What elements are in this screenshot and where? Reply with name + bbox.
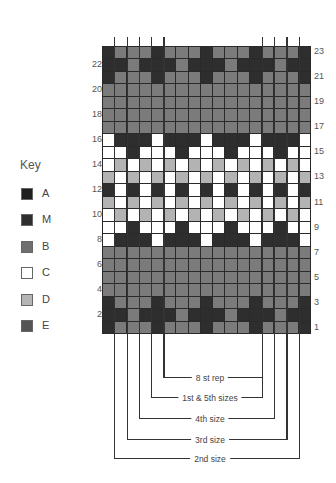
chart-cell — [287, 47, 298, 58]
chart-cell — [176, 109, 187, 120]
chart-cell — [201, 47, 212, 58]
chart-cell — [201, 297, 212, 308]
chart-cell — [274, 322, 285, 333]
chart-cell — [115, 97, 126, 108]
chart-cell — [140, 297, 151, 308]
chart-cell — [189, 72, 200, 83]
row-number: 5 — [314, 272, 330, 282]
chart-cell — [115, 47, 126, 58]
chart-cell — [274, 222, 285, 233]
chart-cell — [274, 159, 285, 170]
chart-cell — [201, 222, 212, 233]
chart-cell — [238, 284, 249, 295]
chart-cell — [115, 147, 126, 158]
chart-cell — [262, 159, 273, 170]
chart-cell — [274, 309, 285, 320]
chart-cell — [238, 59, 249, 70]
chart-cell — [225, 272, 236, 283]
chart-cell — [103, 172, 114, 183]
row-number: 4 — [86, 284, 102, 294]
chart-cell — [103, 134, 114, 145]
chart-cell — [201, 234, 212, 245]
chart-cell — [189, 172, 200, 183]
chart-cell — [274, 172, 285, 183]
chart-cell — [127, 159, 138, 170]
chart-cell — [287, 322, 298, 333]
chart-cell — [225, 84, 236, 95]
chart-cell — [127, 184, 138, 195]
chart-cell — [274, 272, 285, 283]
row-number: 11 — [314, 197, 330, 207]
chart-cell — [176, 309, 187, 320]
chart-cell — [127, 259, 138, 270]
chart-cell — [115, 234, 126, 245]
chart-cell — [201, 172, 212, 183]
chart-cell — [213, 322, 224, 333]
chart-cell — [225, 297, 236, 308]
chart-cell — [140, 134, 151, 145]
chart-cell — [115, 172, 126, 183]
chart-cell — [164, 272, 175, 283]
chart-cell — [164, 259, 175, 270]
chart-cell — [274, 72, 285, 83]
chart-cell — [115, 222, 126, 233]
chart-cell — [213, 72, 224, 83]
chart-cell — [127, 122, 138, 133]
chart-cell — [140, 72, 151, 83]
chart-cell — [287, 309, 298, 320]
chart-cell — [250, 134, 261, 145]
chart-cell — [176, 322, 187, 333]
chart-cell — [262, 209, 273, 220]
chart-cell — [189, 297, 200, 308]
chart-cell — [127, 72, 138, 83]
row-number: 18 — [86, 109, 102, 119]
chart-cell — [103, 309, 114, 320]
chart-cell — [262, 297, 273, 308]
row-number: 6 — [86, 259, 102, 269]
chart-cell — [225, 109, 236, 120]
chart-cell — [213, 59, 224, 70]
chart-cell — [213, 309, 224, 320]
chart-cell — [127, 284, 138, 295]
chart-cell — [299, 109, 310, 120]
chart-cell — [176, 247, 187, 258]
chart-cell — [127, 209, 138, 220]
chart-cell — [140, 197, 151, 208]
chart-cell — [299, 197, 310, 208]
chart-cell — [213, 234, 224, 245]
chart-cell — [176, 284, 187, 295]
chart-cell — [201, 134, 212, 145]
chart-cell — [103, 322, 114, 333]
chart-cell — [250, 209, 261, 220]
chart-cell — [176, 147, 187, 158]
chart-cell — [274, 209, 285, 220]
chart-cell — [189, 84, 200, 95]
chart-cell — [152, 47, 163, 58]
chart-cell — [152, 284, 163, 295]
chart-cell — [238, 109, 249, 120]
swatch-e — [21, 320, 33, 332]
chart-cell — [164, 209, 175, 220]
chart-cell — [201, 247, 212, 258]
chart-cell — [103, 247, 114, 258]
chart-cell — [201, 59, 212, 70]
chart-cell — [274, 297, 285, 308]
chart-cell — [127, 197, 138, 208]
chart-cell — [140, 209, 151, 220]
chart-cell — [213, 247, 224, 258]
chart-cell — [299, 234, 310, 245]
chart-cell — [274, 284, 285, 295]
chart-cell — [201, 97, 212, 108]
chart-cell — [250, 109, 261, 120]
key-label-c: C — [42, 266, 50, 278]
size-line-left — [127, 334, 128, 439]
chart-cell — [164, 247, 175, 258]
chart-cell — [127, 134, 138, 145]
chart-cell — [164, 47, 175, 58]
swatch-m — [21, 214, 33, 226]
chart-cell — [225, 222, 236, 233]
chart-cell — [140, 247, 151, 258]
chart-cell — [287, 247, 298, 258]
chart-cell — [250, 234, 261, 245]
chart-cell — [127, 222, 138, 233]
